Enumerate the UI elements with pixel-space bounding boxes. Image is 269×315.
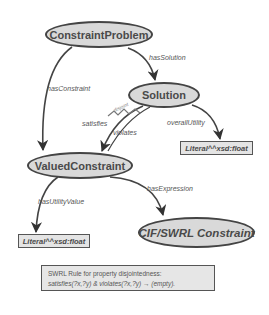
swrl-rule-box: SWRL Rule for property disjointedness: s…	[41, 265, 215, 291]
rule-expression: satisfies(?x,?y) & violates(?x,?y) → (em…	[48, 279, 208, 289]
node-cif-swrl-constraint: CIF/SWRL Constraint	[138, 217, 255, 248]
label-overall-utility: overallUtility	[167, 119, 205, 126]
label-has-expression: hasExpression	[147, 185, 193, 192]
label-violates: violates	[113, 129, 137, 136]
node-valued-constraint: ValuedConstraint	[27, 152, 133, 179]
edge-has-constraint	[43, 47, 72, 150]
label-satisfies: satisfies	[82, 120, 107, 127]
node-literal-utility-value: Literal^^xsd:float	[18, 234, 90, 248]
edge-has-solution	[128, 48, 155, 80]
edge-has-expression	[110, 177, 163, 215]
node-literal-overall-utility: Literal^^xsd:float	[180, 141, 253, 155]
label-has-utility-value: hasUtilityValue	[38, 198, 84, 205]
rule-title: SWRL Rule for property disjointedness:	[48, 269, 208, 279]
label-has-solution: hasSolution	[149, 54, 186, 61]
label-has-constraint: hasConstraint	[47, 85, 90, 92]
node-constraint-problem: ConstraintProblem	[45, 21, 153, 48]
node-solution: Solution	[128, 82, 200, 108]
